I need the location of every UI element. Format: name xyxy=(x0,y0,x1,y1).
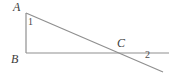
vertex-label-c: C xyxy=(117,37,125,49)
geometry-figure: A B C 1 2 xyxy=(0,0,173,82)
geometry-canvas xyxy=(0,0,173,82)
angle-label-2: 2 xyxy=(145,50,150,60)
vertex-label-b: B xyxy=(11,53,18,65)
vertex-label-a: A xyxy=(13,1,20,13)
transversal-ac-extended-line xyxy=(26,13,163,72)
angle-label-1: 1 xyxy=(28,17,33,27)
